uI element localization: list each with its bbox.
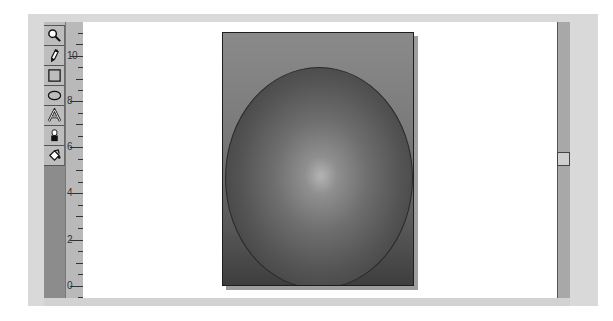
artboard-image[interactable] [222,32,414,286]
vertical-scrollbar-thumb[interactable] [557,152,570,166]
fill-tool-button[interactable] [44,146,65,166]
ruler-minor-tick [76,263,83,264]
ruler-minor-tick [76,216,83,217]
ruler-label-10: 10 [67,51,77,61]
rectangle-icon [47,68,62,83]
ellipse-icon [47,88,62,103]
gradient-sphere[interactable] [225,67,413,286]
ruler-label-0: 0 [67,281,72,291]
ruler-label-4: 4 [67,188,72,198]
rectangle-tool-button[interactable] [44,66,65,86]
ruler-label-6: 6 [67,142,72,152]
text-icon [47,108,62,123]
horizontal-scrollbar-track[interactable] [44,298,570,306]
zoom-tool-button[interactable] [44,26,65,46]
ink-tool-button[interactable] [44,126,65,146]
ruler-label-8: 8 [67,96,72,106]
ruler-minor-tick [76,44,83,45]
text-tool-button[interactable] [44,106,65,126]
ruler-minor-tick [76,124,83,125]
ruler-label-2: 2 [67,235,72,245]
ruler-minor-tick [76,79,83,80]
pen-icon [47,48,62,63]
paint-bucket-icon [47,148,62,163]
ellipse-tool-button[interactable] [44,86,65,106]
pen-tool-button[interactable] [44,46,65,66]
ink-bottle-icon [47,128,62,143]
vertical-ruler: 10 8 6 4 2 0 [65,22,83,298]
magnifier-icon [47,28,62,43]
ruler-minor-tick [76,170,83,171]
